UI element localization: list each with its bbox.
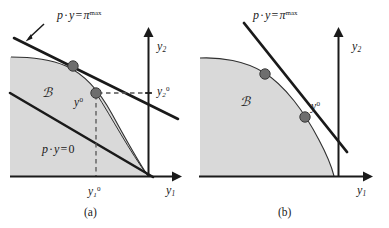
isoprofit-label-a: p·y=πmax — [57, 9, 102, 21]
x-axis-arrowhead-a — [172, 172, 182, 182]
y2-zero-label-a: y20 — [157, 86, 170, 99]
zeroprofit-zero-a: 0 — [68, 142, 74, 156]
zero-profit-label-a: p·y=0 — [42, 143, 74, 155]
tangency-point-marker-a — [68, 61, 78, 71]
isoprofit-max-sup-a: max — [89, 9, 101, 17]
y2-axis-sub-a: 2 — [162, 45, 166, 54]
isoprofit-max-sup-b: max — [285, 9, 297, 17]
production-set-region-a — [10, 57, 148, 176]
y2-zero-sup-a: 0 — [166, 85, 170, 93]
profit-max-point-marker-a — [91, 88, 101, 98]
production-set-label-b: ℬ — [240, 95, 250, 108]
production-set-symbol-b: ℬ — [240, 94, 250, 109]
callout-arrow-a — [26, 24, 45, 42]
panel-a-caption-text: (a) — [84, 206, 97, 218]
y1-axis-sub-a: 1 — [171, 189, 175, 198]
point-y0-label-a: y0 — [74, 97, 83, 109]
panel-b-caption: (b) — [278, 207, 291, 219]
panel-b-caption-text: (b) — [278, 206, 291, 218]
y1-axis-sub-b: 1 — [362, 189, 366, 198]
point-y0-sup-a: 0 — [79, 96, 83, 104]
y-axis-arrowhead-b — [334, 27, 344, 37]
figure-root: p·y=πmax p·y=0 ℬ y0 y10 y20 y2 y1 (a) p·… — [0, 0, 389, 228]
y1-axis-label-a: y1 — [166, 184, 175, 198]
profit-max-point-marker-b — [300, 112, 310, 122]
point-y0-label-b: y0 — [311, 101, 320, 113]
panel-a-caption: (a) — [84, 207, 97, 219]
y2-axis-label-a: y2 — [157, 40, 166, 54]
frontier-point-marker-b — [260, 69, 270, 79]
y2-axis-sub-b: 2 — [357, 45, 361, 54]
y1-zero-sup-a: 0 — [97, 185, 101, 193]
y-axis-arrowhead-a — [144, 27, 154, 37]
isoprofit-label-b: p·y=πmax — [253, 9, 298, 21]
y1-axis-label-b: y1 — [357, 184, 366, 198]
y1-zero-label-a: y10 — [88, 186, 101, 199]
x-axis-arrowhead-b — [363, 172, 373, 182]
production-set-symbol-a: ℬ — [42, 85, 52, 100]
production-set-label-a: ℬ — [42, 86, 52, 99]
point-y0-sup-b: 0 — [316, 100, 320, 108]
y2-axis-label-b: y2 — [352, 40, 361, 54]
